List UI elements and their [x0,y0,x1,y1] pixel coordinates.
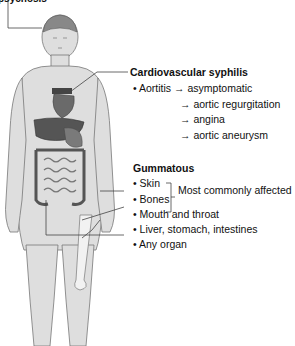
outcome-angina: angina [193,113,225,125]
most-commonly-affected-note: Most commonly affected [178,184,292,197]
gummatous-item: • Bones [133,193,169,206]
outcome-row: → aortic regurgitation [180,98,280,111]
gummatous-item: • Liver, stomach, intestines [133,223,258,236]
outcome-asymptomatic: asymptomatic [187,82,252,94]
arrow-icon: → [180,113,191,125]
outcome-row: → angina [180,113,225,126]
gummatous-item: • Mouth and throat [133,208,219,221]
arrow-icon: → [174,82,185,94]
item-skin: Skin [140,177,160,189]
aorta [52,88,72,94]
psychosis-label: psychosis [0,0,47,4]
item-mouth-throat: Mouth and throat [140,208,219,220]
aortitis-row: • Aortitis → asymptomatic [133,82,252,95]
arrow-icon: → [180,129,191,141]
item-any-organ: Any organ [139,238,187,250]
item-liver-stomach-intestines: Liver, stomach, intestines [140,223,258,235]
outcome-aortic-aneurysm: aortic aneurysm [193,129,268,141]
bullet: • [133,82,137,94]
gummatous-item: • Any organ [133,238,187,251]
arrow-icon: → [180,98,191,110]
gummatous-title: Gummatous [133,162,194,175]
cardiovascular-title: Cardiovascular syphilis [130,66,248,79]
outcome-row: → aortic aneurysm [180,129,268,142]
aortitis-label: Aortitis [139,82,171,94]
item-bones: Bones [140,193,170,205]
gummatous-item: • Skin [133,177,160,190]
outcome-aortic-regurgitation: aortic regurgitation [193,98,280,110]
